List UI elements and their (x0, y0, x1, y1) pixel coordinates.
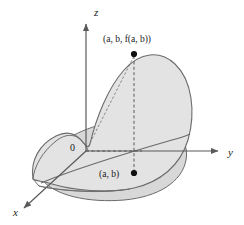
surface-point-label-text: (a, b, f(a, b)) (103, 34, 151, 45)
surface-point-dot (131, 51, 137, 57)
origin-label: 0 (70, 142, 75, 153)
surface-diagram: z y x 0 (a, b, f(a, b)) (a, b) (0, 0, 244, 225)
figure-root: z y x 0 (a, b, f(a, b)) (a, b) (0, 0, 244, 225)
domain-point-label: (a, b) (99, 169, 119, 180)
y-axis-label: y (227, 146, 233, 158)
surface-point-label: (a, b, f(a, b)) (103, 34, 151, 45)
domain-point-dot (131, 170, 137, 176)
domain-point-label-text: (a, b) (99, 169, 119, 180)
z-axis-label: z (93, 6, 99, 18)
x-axis-label: x (12, 206, 18, 218)
